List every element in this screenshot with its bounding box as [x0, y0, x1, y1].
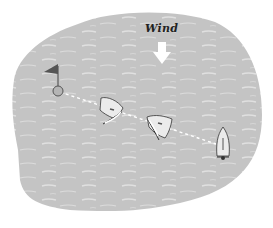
- water-area: [12, 12, 262, 211]
- sailing-diagram: [0, 0, 273, 228]
- wind-label: Wind: [145, 22, 178, 35]
